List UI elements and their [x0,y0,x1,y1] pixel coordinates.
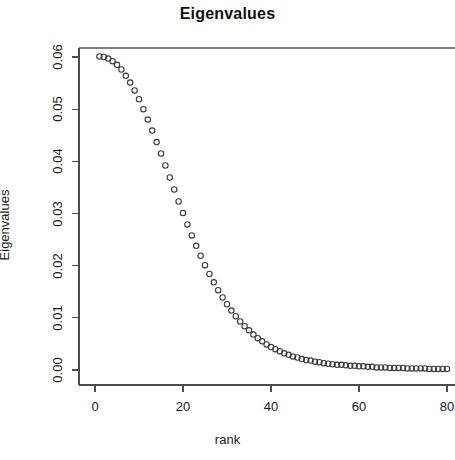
plot-frame [79,48,455,385]
eigenvalues-scree-plot: Eigenvalues Eigenvalues rank 0.000.010.0… [0,0,455,460]
data-point [246,328,251,333]
data-point [150,128,155,133]
data-points [97,54,450,372]
data-point [233,314,238,319]
data-point [189,233,194,238]
data-point [163,163,168,168]
data-point [216,287,221,292]
data-point [136,97,141,102]
data-point [176,199,181,204]
y-tick-label: 0.06 [50,44,65,69]
data-point [123,73,128,78]
data-point [229,308,234,313]
data-point [238,319,243,324]
x-tick-label: 60 [352,399,366,414]
data-point [114,62,119,67]
data-point [119,67,124,72]
y-tick-label: 0.04 [50,149,65,174]
x-tick-label: 0 [91,399,98,414]
data-point [172,187,177,192]
x-tick-label: 40 [264,399,278,414]
data-point [198,253,203,258]
y-tick-label: 0.03 [50,201,65,226]
y-tick-label: 0.01 [50,305,65,330]
data-point [145,117,150,122]
data-point [132,88,137,93]
plot-canvas [0,0,455,460]
data-point [194,243,199,248]
data-point [207,271,212,276]
y-tick-label: 0.02 [50,253,65,278]
data-point [141,106,146,111]
data-point [154,139,159,144]
data-point [242,323,247,328]
data-point [185,222,190,227]
data-point [158,151,163,156]
x-tick-label: 80 [440,399,454,414]
data-point [224,302,229,307]
data-point [202,262,207,267]
data-point [128,80,133,85]
x-tick-label: 20 [176,399,190,414]
data-point [180,210,185,215]
y-tick-label: 0.00 [50,357,65,382]
data-point [220,295,225,300]
data-point [167,175,172,180]
y-tick-label: 0.05 [50,97,65,122]
data-point [211,280,216,285]
